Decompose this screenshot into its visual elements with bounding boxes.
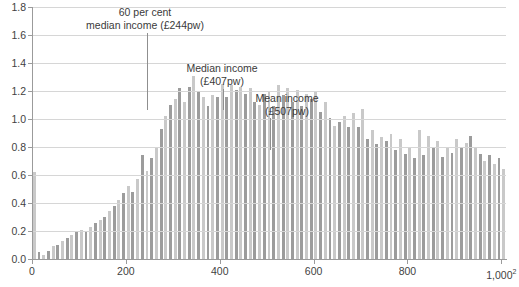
histogram-bar [117, 200, 120, 259]
histogram-bar [249, 88, 252, 259]
histogram-bar [136, 179, 139, 259]
annotation-line: Mean income [255, 92, 318, 105]
histogram-bar [258, 105, 261, 259]
annotation-leader-line-median-income [223, 89, 224, 110]
annotation-low-income-threshold: 60 per centmedian income (£244pw) [86, 6, 204, 31]
histogram-bar [150, 158, 153, 259]
histogram-bar [216, 97, 219, 259]
y-axis-tick-label: 1.6 [0, 30, 26, 41]
y-axis-tick-label: 1.4 [0, 58, 26, 69]
annotation-line: (£507pw) [255, 105, 318, 118]
histogram-bar [160, 129, 163, 259]
histogram-bar [436, 141, 439, 259]
annotation-line: median income (£244pw) [86, 19, 204, 32]
x-axis-tick-label: 800 [399, 266, 417, 277]
histogram-bar [441, 157, 444, 259]
histogram-bar [498, 158, 501, 259]
histogram-bar [108, 211, 111, 259]
histogram-bar [352, 113, 355, 259]
y-axis-tick-label: 0.4 [0, 198, 26, 209]
x-axis-tick-mark [314, 260, 315, 264]
histogram-bar [465, 143, 468, 259]
x-axis-tick-mark [32, 260, 33, 264]
histogram-bar [319, 112, 322, 259]
histogram-bar [202, 97, 205, 259]
histogram-bar [103, 217, 106, 259]
histogram-bar [366, 139, 369, 259]
histogram-bar [502, 169, 505, 259]
x-axis-tick-label: 0 [29, 266, 35, 277]
gridline-y [32, 35, 506, 36]
histogram-bar [329, 118, 332, 259]
histogram-bar [300, 106, 303, 259]
x-axis-tick-label: 1,0002 [486, 266, 516, 281]
y-axis-tick-label: 0.8 [0, 142, 26, 153]
histogram-bar [47, 251, 50, 259]
histogram-bar [225, 97, 228, 259]
histogram-bar [85, 231, 88, 259]
histogram-bar [338, 122, 341, 259]
annotation-line: (£407pw) [186, 75, 257, 88]
histogram-bar [113, 206, 116, 259]
histogram-bar [164, 116, 167, 259]
histogram-bar [469, 136, 472, 259]
histogram-bar [361, 109, 364, 259]
histogram-bar [174, 99, 177, 259]
histogram-bar [413, 158, 416, 259]
y-axis-tick-label: 1.2 [0, 86, 26, 97]
histogram-bar [221, 84, 224, 259]
histogram-bar [488, 155, 491, 259]
histogram-bar [169, 105, 172, 259]
histogram-bar [131, 192, 134, 259]
x-axis-tick-mark [126, 260, 127, 264]
histogram-bar [239, 87, 242, 259]
histogram-bar [427, 136, 430, 259]
gridline-y [32, 63, 506, 64]
x-axis-tick-mark [220, 260, 221, 264]
histogram-bar [333, 126, 336, 259]
x-axis-footnote-marker: 2 [512, 268, 516, 275]
histogram-bar [375, 144, 378, 259]
histogram-bar [418, 130, 421, 259]
histogram-bar [66, 238, 69, 259]
histogram-bar [70, 235, 73, 259]
x-axis-tick-mark [501, 260, 502, 264]
y-axis-line [32, 7, 33, 260]
histogram-bar [390, 134, 393, 259]
histogram-bar [451, 153, 454, 259]
histogram-bar [479, 154, 482, 259]
x-axis-line [32, 259, 507, 260]
x-axis-tick-label: 400 [211, 266, 229, 277]
income-distribution-chart: 0.00.20.40.60.81.01.21.41.61.8 020040060… [0, 0, 519, 287]
histogram-bar [99, 220, 102, 259]
histogram-bar [127, 186, 130, 259]
histogram-bar [141, 155, 144, 259]
gridline-y [32, 175, 506, 176]
histogram-bar [146, 171, 149, 259]
histogram-bar [371, 130, 374, 259]
y-axis-tick-label: 1.8 [0, 2, 26, 13]
histogram-bar [38, 252, 41, 259]
annotation-line: Median income [186, 62, 257, 75]
y-axis-tick-label: 0.6 [0, 170, 26, 181]
annotation-leader-line-mean-income [270, 118, 271, 150]
histogram-bar [455, 139, 458, 259]
histogram-bar [230, 85, 233, 259]
annotation-line: 60 per cent [86, 6, 204, 19]
histogram-bar [183, 102, 186, 259]
y-axis-tick-label: 0.0 [0, 254, 26, 265]
histogram-bar [80, 230, 83, 259]
histogram-bar [253, 102, 256, 259]
gridline-y [32, 231, 506, 232]
histogram-bar [310, 99, 313, 259]
histogram-bar [52, 246, 55, 259]
histogram-bar [56, 245, 59, 259]
histogram-bar [404, 154, 407, 259]
histogram-bar [399, 139, 402, 259]
y-axis-tick-label: 0.2 [0, 226, 26, 237]
y-axis-tick-label: 1.0 [0, 114, 26, 125]
histogram-bar [385, 141, 388, 259]
histogram-bar [272, 106, 275, 259]
histogram-bar [394, 150, 397, 259]
histogram-bar [61, 241, 64, 259]
